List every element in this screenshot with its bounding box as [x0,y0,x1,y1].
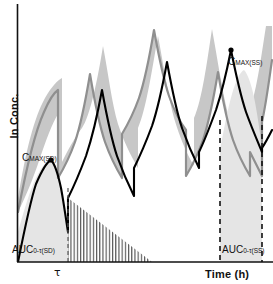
auc-ss-sub: 0-τ(SS) [243,247,264,254]
auc-sd-annotation: AUC0-τ(SD) [12,240,55,256]
tau-tick-label: τ [54,266,61,279]
cmax-sd-sub: MAX(SD) [29,155,56,162]
auc-sd-main: AUC [12,244,33,255]
single-dose-extrapolation-hatch [68,198,152,262]
pk-accumulation-chart: ln Conc. Time (h) τ CMAX(SD) CMAX(SS) AU… [0,0,273,284]
cmax-ss-sub: MAX(SS) [235,59,262,66]
y-axis-label: ln Conc. [8,81,20,151]
auc-sd-sub: 0-τ(SD) [33,247,55,254]
auc-ss-main: AUC [222,244,243,255]
x-axis-label: Time (h) [205,268,249,280]
cmax-ss-annotation: CMAX(SS) [228,52,262,68]
auc-ss-annotation: AUC0-τ(SS) [222,240,264,256]
cmax-sd-annotation: CMAX(SD) [22,148,57,164]
